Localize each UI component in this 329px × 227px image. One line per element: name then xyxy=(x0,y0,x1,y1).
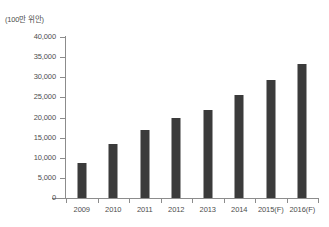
y-axis-tick-label: 40,000 xyxy=(34,32,56,41)
bar[interactable] xyxy=(203,110,212,198)
bar[interactable] xyxy=(266,80,275,198)
x-axis-label: 2014 xyxy=(224,205,256,214)
bar[interactable] xyxy=(140,130,149,198)
bar-group xyxy=(192,37,224,198)
x-axis-label: 2010 xyxy=(98,205,130,214)
bar-group xyxy=(287,37,319,198)
y-axis-tick-label: 25,000 xyxy=(34,92,56,101)
x-axis-label: 2009 xyxy=(66,205,98,214)
y-axis-tick-label: 35,000 xyxy=(34,52,56,61)
y-axis-unit-label: (100만 위안) xyxy=(5,13,44,24)
x-axis-separator xyxy=(224,198,225,203)
y-axis-tick-label: 30,000 xyxy=(34,72,56,81)
x-axis-separator xyxy=(98,198,99,203)
x-axis-label: 2016(F) xyxy=(287,205,319,214)
x-axis-separator xyxy=(318,198,319,203)
y-axis-tick-label: 20,000 xyxy=(34,113,56,122)
y-axis-tick-label: 0 xyxy=(52,193,56,202)
bar-group xyxy=(224,37,256,198)
x-axis-separator xyxy=(192,198,193,203)
bar[interactable] xyxy=(172,118,181,198)
x-axis-separator xyxy=(287,198,288,203)
bar-group xyxy=(255,37,287,198)
y-axis-tick-label: 10,000 xyxy=(34,153,56,162)
bar-chart: (100만 위안) 40,00035,00030,00025,00020,000… xyxy=(0,0,329,227)
y-axis-tick-label: 5,000 xyxy=(38,173,56,182)
bar-group xyxy=(129,37,161,198)
bar-group xyxy=(66,37,98,198)
x-axis-separator xyxy=(66,198,67,203)
x-axis-separator xyxy=(129,198,130,203)
bar-group xyxy=(161,37,193,198)
x-axis-label: 2013 xyxy=(192,205,224,214)
plot-area xyxy=(66,37,318,198)
x-axis-separator xyxy=(255,198,256,203)
x-axis-label: 2015(F) xyxy=(255,205,287,214)
x-axis-label: 2012 xyxy=(161,205,193,214)
bar[interactable] xyxy=(109,144,118,198)
x-axis-label: 2011 xyxy=(129,205,161,214)
x-axis-separator xyxy=(161,198,162,203)
bar[interactable] xyxy=(298,64,307,198)
y-axis-tick-label: 15,000 xyxy=(34,133,56,142)
bar-group xyxy=(98,37,130,198)
bar[interactable] xyxy=(235,95,244,198)
x-axis-line xyxy=(52,198,318,199)
bar[interactable] xyxy=(77,163,86,198)
